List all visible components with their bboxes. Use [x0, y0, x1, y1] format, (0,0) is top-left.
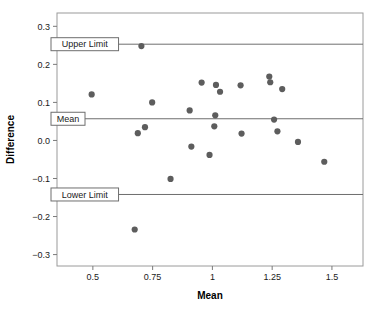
reference-label-upper-limit: Upper Limit: [62, 39, 109, 49]
data-point: [149, 99, 155, 105]
data-point: [89, 91, 95, 97]
data-point: [267, 79, 273, 85]
data-point: [279, 86, 285, 92]
reference-line-labels: Upper LimitMeanLower Limit: [51, 38, 119, 201]
reference-label-lower-limit: Lower Limit: [62, 190, 109, 200]
data-point: [142, 124, 148, 130]
data-point: [274, 128, 280, 134]
data-point: [321, 159, 327, 165]
data-point: [138, 43, 144, 49]
data-point: [187, 107, 193, 113]
y-tick-label: 0.3: [37, 22, 50, 32]
y-tick-label: −0.3: [32, 250, 50, 260]
data-point: [266, 73, 272, 79]
reference-label-mean: Mean: [57, 114, 80, 124]
data-point: [212, 112, 218, 118]
y-axis-ticks: 0.30.20.10.0−0.1−0.2−0.3: [32, 22, 57, 260]
y-tick-label: 0.1: [37, 98, 50, 108]
y-tick-label: −0.2: [32, 212, 50, 222]
data-point: [238, 82, 244, 88]
data-point: [167, 176, 173, 182]
data-point: [132, 226, 138, 232]
data-point: [217, 89, 223, 95]
y-tick-label: 0.0: [37, 136, 50, 146]
y-axis-title: Difference: [5, 115, 16, 164]
data-point: [206, 152, 212, 158]
x-tick-label: 1.25: [263, 272, 281, 282]
reference-lines: [51, 44, 363, 194]
data-point: [271, 116, 277, 122]
data-point: [213, 82, 219, 88]
chart-canvas: 0.30.20.10.0−0.1−0.2−0.3 0.50.7511.251.5…: [0, 0, 382, 312]
y-tick-label: −0.1: [32, 174, 50, 184]
y-tick-label: 0.2: [37, 60, 50, 70]
x-axis-title: Mean: [197, 290, 223, 301]
x-tick-label: 1: [210, 272, 215, 282]
data-points: [89, 43, 328, 233]
x-tick-label: 0.5: [87, 272, 100, 282]
x-tick-label: 1.5: [326, 272, 339, 282]
data-point: [238, 131, 244, 137]
x-tick-label: 0.75: [144, 272, 162, 282]
data-point: [188, 143, 194, 149]
data-point: [211, 123, 217, 129]
data-point: [135, 130, 141, 136]
bland-altman-plot: 0.30.20.10.0−0.1−0.2−0.3 0.50.7511.251.5…: [0, 0, 382, 312]
data-point: [199, 80, 205, 86]
x-axis-ticks: 0.50.7511.251.5: [87, 266, 339, 282]
data-point: [295, 139, 301, 145]
